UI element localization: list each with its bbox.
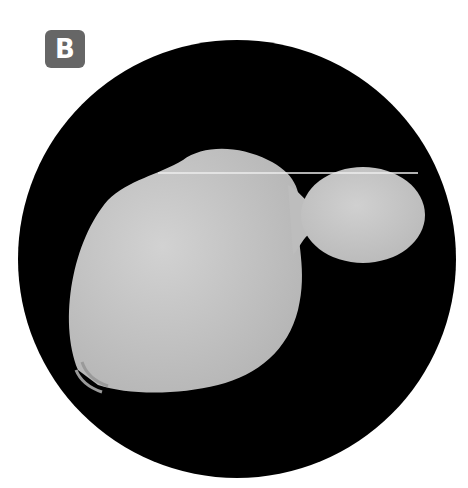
micrograph-field (18, 40, 456, 478)
daughter-bud (301, 167, 425, 263)
